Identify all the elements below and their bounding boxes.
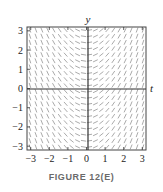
y-tick-labels: −3−2−10123 [12,25,23,151]
svg-text:−1: −1 [63,153,74,164]
svg-text:0: 0 [18,83,23,94]
figure-caption: FIGURE 12(E) [0,172,163,182]
svg-text:0: 0 [84,153,89,164]
svg-text:3: 3 [140,153,145,164]
svg-text:−2: −2 [12,121,23,132]
svg-text:3: 3 [18,25,23,36]
t-axis-label: t [150,82,154,94]
svg-text:1: 1 [18,64,23,75]
svg-text:−3: −3 [12,141,23,152]
svg-text:2: 2 [18,45,23,56]
svg-text:−3: −3 [25,153,36,164]
y-axis-label: y [85,13,91,25]
slope-field-plot: y t −3−2−10123 −3−2−10123 [0,0,163,192]
svg-text:−1: −1 [12,102,23,113]
x-tick-labels: −3−2−10123 [25,153,144,164]
svg-text:1: 1 [103,153,108,164]
svg-text:2: 2 [121,153,126,164]
svg-text:−2: −2 [44,153,55,164]
